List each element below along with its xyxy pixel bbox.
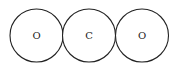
atom-label: O (138, 30, 146, 41)
atom-label: C (85, 30, 93, 41)
atom-oxygen-left: O (10, 9, 63, 62)
atom-oxygen-right: O (116, 9, 169, 62)
atom-carbon-center: C (63, 9, 116, 62)
molecule-diagram: O C O (0, 0, 181, 68)
atom-label: O (32, 30, 40, 41)
